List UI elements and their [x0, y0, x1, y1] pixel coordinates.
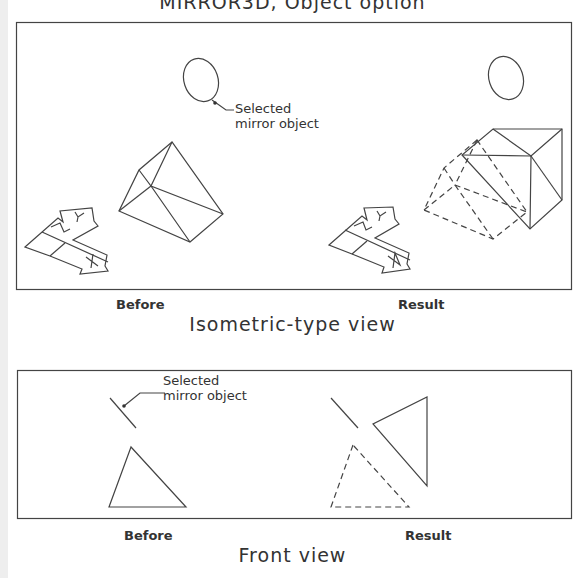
triangle-result-dashed	[331, 445, 409, 507]
callout-text-iso: Selected mirror object	[235, 101, 319, 131]
diagram-canvas	[0, 0, 585, 578]
callout-line-1: Selected	[163, 373, 247, 388]
triangle-result-solid	[373, 397, 427, 486]
wedge-result-solid	[462, 129, 562, 229]
caption-front: Front view	[0, 544, 585, 566]
mirror-ellipse-result	[483, 52, 529, 104]
callout-text-front: Selected mirror object	[163, 373, 247, 403]
front-panel-frame	[18, 371, 572, 519]
ucs-icon-before	[25, 208, 108, 274]
mirror-line-before	[110, 398, 136, 428]
ucs-icon-result	[329, 207, 410, 273]
label-result-front: Result	[405, 528, 452, 543]
callout-line-2: mirror object	[163, 388, 247, 403]
isometric-panel-frame	[17, 23, 572, 290]
callout-line-2: mirror object	[235, 116, 319, 131]
callout-line-1: Selected	[235, 101, 319, 116]
label-before-iso: Before	[116, 297, 165, 312]
mirror-line-result	[331, 398, 358, 428]
label-before-front: Before	[124, 528, 173, 543]
label-result-iso: Result	[398, 297, 445, 312]
triangle-before	[109, 447, 186, 507]
mirror-ellipse-before	[178, 54, 224, 106]
callout-leader-front	[124, 393, 165, 406]
wedge-before	[119, 142, 223, 242]
caption-isometric: Isometric-type view	[0, 313, 585, 335]
